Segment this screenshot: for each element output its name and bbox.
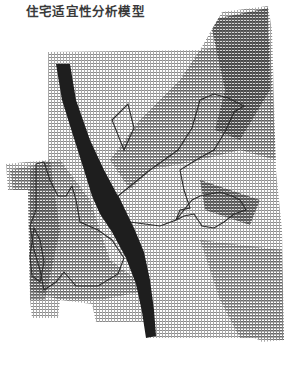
suitability-map [0,0,292,373]
